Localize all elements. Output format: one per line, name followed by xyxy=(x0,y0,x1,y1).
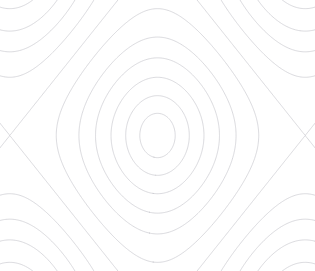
contour-canvas xyxy=(0,0,315,271)
plot-background xyxy=(0,0,315,271)
contour-plot xyxy=(0,0,315,271)
